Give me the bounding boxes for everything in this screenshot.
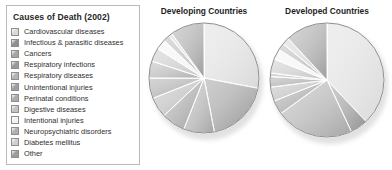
pie-developed-svg [269,21,385,139]
legend-color-swatch [11,138,19,146]
legend-list: Cardiovascular diseasesInfectious & para… [7,26,139,159]
legend-item-label: Other [24,148,42,159]
pie-developed-wrap [269,21,385,139]
legend-color-swatch [11,150,19,158]
pie-developing-svg [148,21,260,135]
legend-color-swatch [11,116,19,124]
pie-slice-shading [204,23,259,88]
chart-developed-countries: Developed Countries [265,6,389,139]
legend-color-swatch [11,105,19,113]
legend-item-label: Perinatal conditions [24,93,89,104]
chart-developing-countries: Developing Countries [145,6,263,135]
legend-item: Unintentional injuries [11,81,139,92]
legend-color-swatch [11,28,19,36]
chart-title-developing: Developing Countries [145,6,263,16]
legend-item: Diabetes mellitus [11,137,139,148]
legend-item-label: Unintentional injuries [24,82,93,93]
legend-item: Cancers [11,48,139,59]
legend-item: Respiratory infections [11,59,139,70]
legend-color-swatch [11,127,19,135]
legend-item-label: Respiratory infections [24,59,95,70]
legend-color-swatch [11,61,19,69]
legend-item: Neuropsychiatric disorders [11,126,139,137]
legend-item: Intentional injuries [11,115,139,126]
legend-title: Causes of Death (2002) [13,12,139,22]
legend-color-swatch [11,39,19,47]
legend-item: Infectious & parasitic diseases [11,37,139,48]
legend-item-label: Cardiovascular diseases [24,26,105,37]
pie-developing-wrap [148,21,260,135]
legend-color-swatch [11,72,19,80]
legend-item-label: Neuropsychiatric disorders [24,126,112,137]
legend-item-label: Digestive diseases [24,104,86,115]
legend-item: Other [11,148,139,159]
legend-panel: Causes of Death (2002) Cardiovascular di… [6,5,140,165]
legend-color-swatch [11,50,19,58]
legend-item-label: Diabetes mellitus [24,137,80,148]
legend-item: Cardiovascular diseases [11,26,139,37]
legend-color-swatch [11,94,19,102]
legend-item: Digestive diseases [11,104,139,115]
legend-item: Perinatal conditions [11,93,139,104]
legend-color-swatch [11,83,19,91]
legend-item-label: Cancers [24,48,52,59]
legend-item: Respiratory diseases [11,70,139,81]
legend-item-label: Intentional injuries [24,115,84,126]
chart-title-developed: Developed Countries [265,6,389,16]
legend-item-label: Infectious & parasitic diseases [24,37,123,48]
legend-item-label: Respiratory diseases [24,70,93,81]
